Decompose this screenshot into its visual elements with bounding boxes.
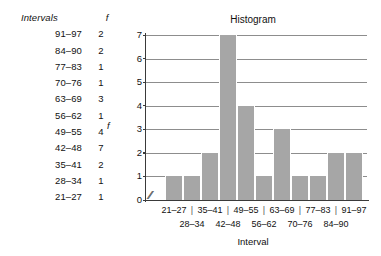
x-axis-tick-label: 70–76 (287, 219, 312, 229)
cell-interval: 35–41 (14, 159, 82, 170)
x-axis-tick-label: 35–41 (197, 205, 222, 215)
table-row: 70–76 1 (14, 77, 126, 93)
y-axis-label: f (107, 120, 110, 131)
cell-frequency: 2 (82, 159, 120, 170)
x-axis-tick-label: 91–97 (341, 205, 366, 215)
cell-frequency: 1 (82, 175, 120, 186)
cell-interval: 21–27 (14, 191, 82, 202)
bar (255, 176, 273, 200)
bar-series (146, 35, 367, 200)
y-axis-tick-label: 5 (128, 76, 142, 87)
column-header-frequency: f (88, 12, 126, 23)
cell-interval: 84–90 (14, 45, 82, 56)
bar (165, 176, 183, 200)
column-header-intervals: Intervals (14, 12, 88, 23)
bar (201, 153, 219, 200)
bar (237, 106, 255, 200)
table-row: 42–48 7 (14, 142, 126, 158)
cell-interval: 56–62 (14, 110, 82, 121)
plot-area: 01234567 (146, 35, 367, 200)
x-axis-tick-label: 56–62 (251, 219, 276, 229)
table-row: 21–27 1 (14, 191, 126, 207)
cell-frequency: 1 (82, 77, 120, 88)
bar (183, 176, 201, 200)
x-axis-tick-label: 63–69 (269, 205, 294, 215)
cell-frequency: 1 (82, 110, 120, 121)
table-row: 35–41 2 (14, 159, 126, 175)
bar (327, 153, 345, 200)
histogram-chart: Histogram f 01234567 // 21–27|35–41|49–5… (128, 4, 378, 254)
cell-interval: 28–34 (14, 175, 82, 186)
x-label-separator: | (299, 205, 301, 215)
cell-frequency: 2 (82, 45, 120, 56)
bar (291, 176, 309, 200)
cell-interval: 91–97 (14, 28, 82, 39)
x-label-separator: | (263, 205, 265, 215)
x-axis-tick-label: 49–55 (233, 205, 258, 215)
y-axis-tick-label: 0 (128, 194, 142, 205)
x-label-separator: | (227, 205, 229, 215)
cell-frequency: 1 (82, 61, 120, 72)
y-axis-tick-label: 1 (128, 170, 142, 181)
bar (345, 153, 363, 200)
cell-frequency: 4 (82, 126, 120, 137)
y-axis-tick-label: 6 (128, 53, 142, 64)
table-row: 63–69 3 (14, 93, 126, 109)
x-axis-tick-label: 42–48 (215, 219, 240, 229)
x-axis-tick-label: 28–34 (179, 219, 204, 229)
chart-title: Histogram (128, 14, 378, 25)
bar (219, 35, 237, 200)
x-axis-labels-row-2: 28–3442–4856–6270–7684–90 (146, 219, 367, 231)
table-header-row: Intervals f (14, 12, 126, 28)
bar (309, 176, 327, 200)
cell-interval: 49–55 (14, 126, 82, 137)
cell-frequency: 3 (82, 93, 120, 104)
cell-interval: 63–69 (14, 93, 82, 104)
table-row: 84–90 2 (14, 45, 126, 61)
x-axis-labels-row-1: 21–27|35–41|49–55|63–69|77–83|91–97 (146, 205, 367, 217)
frequency-table: Intervals f 91–97 2 84–90 2 77–83 1 70–7… (14, 12, 126, 208)
table-row: 28–34 1 (14, 175, 126, 191)
cell-interval: 77–83 (14, 61, 82, 72)
y-axis-tick-label: 2 (128, 147, 142, 158)
cell-frequency: 2 (82, 28, 120, 39)
y-axis-tick-label: 4 (128, 100, 142, 111)
y-axis-tick-label: 7 (128, 29, 142, 40)
cell-frequency: 1 (82, 191, 120, 202)
table-row: 77–83 1 (14, 61, 126, 77)
x-axis-tick-label: 77–83 (305, 205, 330, 215)
cell-interval: 70–76 (14, 77, 82, 88)
bar (273, 129, 291, 200)
x-axis-title: Interval (128, 236, 378, 247)
cell-interval: 42–48 (14, 142, 82, 153)
x-label-separator: | (335, 205, 337, 215)
x-axis-line (145, 200, 369, 201)
cell-frequency: 7 (82, 142, 120, 153)
x-axis-tick-label: 21–27 (161, 205, 186, 215)
y-axis-tick-label: 3 (128, 123, 142, 134)
x-axis-tick-label: 84–90 (323, 219, 348, 229)
x-label-separator: | (191, 205, 193, 215)
histogram-figure: { "table": { "headers": { "interval": "I… (0, 0, 381, 256)
table-row: 91–97 2 (14, 28, 126, 44)
